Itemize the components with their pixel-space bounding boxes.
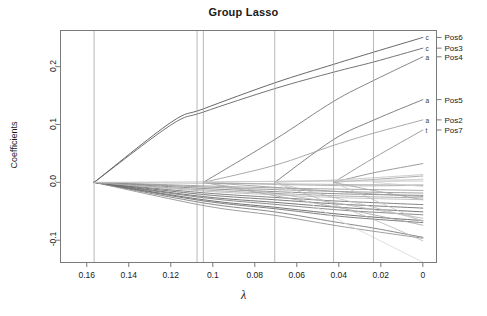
right-axis-label: Pos3	[445, 44, 463, 53]
x-tick-label: 0.14	[121, 270, 138, 280]
curve-end-letter: a	[426, 53, 430, 60]
plot-frame-layer	[61, 31, 437, 263]
curve-end-letter: t	[426, 127, 428, 134]
coefficient-path	[203, 57, 423, 183]
y-tick-label: 0.0	[48, 168, 58, 194]
x-tick-label: 0.02	[373, 270, 390, 280]
x-tick-label: 0.04	[331, 270, 348, 280]
y-tick-label: 0.1	[48, 111, 58, 137]
group-lasso-chart-figure: Group Lasso Coefficients λ 0.160.140.120…	[0, 0, 487, 316]
right-axis-label: Pos2	[445, 115, 463, 124]
x-tick-label: 0.12	[163, 270, 180, 280]
curve-end-letter: a	[426, 96, 430, 103]
right-axis-label: Pos4	[445, 52, 463, 61]
y-tick-label: -0.1	[48, 226, 58, 252]
x-tick-label: 0.1	[207, 270, 219, 280]
right-axis-label: Pos5	[445, 95, 463, 104]
curve-end-letter: a	[426, 116, 430, 123]
curve-end-letter: c	[426, 45, 429, 52]
right-axis-label: Pos6	[445, 33, 463, 42]
x-tick-label: 0.06	[289, 270, 306, 280]
coefficient-path	[275, 100, 423, 183]
coefficient-path	[334, 130, 423, 182]
x-tick-label: 0.16	[79, 270, 96, 280]
right-axis-label: Pos7	[445, 126, 463, 135]
right-axis-ticks-layer	[437, 37, 442, 130]
plot-area	[0, 0, 487, 316]
x-tick-label: 0	[420, 270, 425, 280]
axis-ticks-layer	[56, 67, 423, 267]
coefficient-path	[203, 120, 423, 182]
y-tick-label: 0.2	[48, 53, 58, 79]
curve-end-letter: c	[426, 34, 429, 41]
x-tick-label: 0.08	[247, 270, 264, 280]
